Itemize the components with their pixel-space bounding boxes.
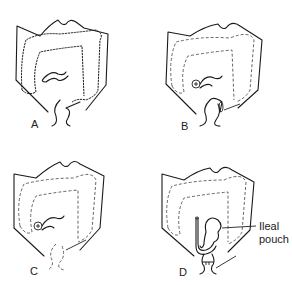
panel-label-d: D [179, 266, 187, 278]
annotation-line-2: pouch [259, 233, 289, 246]
ileal-pouch-annotation: Ileal pouch [259, 220, 289, 246]
panel-a-drawing [16, 20, 108, 126]
panel-d-drawing [162, 167, 256, 274]
annotation-line-1: Ileal [259, 220, 289, 233]
colectomy-diagram [0, 0, 292, 285]
panel-label-b: B [181, 120, 188, 132]
panel-c-drawing [14, 161, 104, 270]
panel-b-drawing [166, 23, 262, 126]
panel-label-c: C [30, 265, 38, 277]
panel-label-a: A [31, 118, 38, 130]
